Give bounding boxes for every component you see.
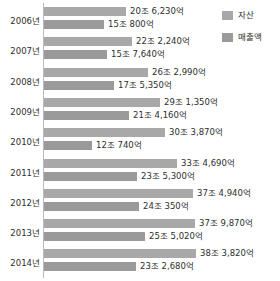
square-swatch-icon: [222, 33, 233, 42]
bar-value-label-asset: 20조 6,230억: [130, 5, 184, 17]
bar-asset: 30조 3,870억: [44, 128, 214, 137]
bar-value-label-sales: 25조 5,020억: [149, 230, 203, 242]
bar-group: 2011년33조 4,690억23조 5,300억: [0, 157, 215, 187]
bar-value-label-sales: 17조 5,350억: [118, 79, 172, 91]
bar-asset: 38조 3,820억: [44, 249, 214, 258]
bar-asset: 20조 6,230억: [44, 7, 214, 16]
bar-rect-sales: [44, 172, 137, 181]
square-swatch-icon: [222, 11, 233, 20]
bar-chart: 2006년20조 6,230억15조 800억2007년22조 2,240억15…: [0, 0, 280, 281]
bar-group: 2009년29조 1,350억21조 4,160억: [0, 96, 215, 126]
bar-rect-asset: [44, 159, 177, 168]
bar-rect-sales: [44, 141, 92, 150]
bar-asset: 22조 2,240억: [44, 37, 214, 46]
legend-label-asset: 자산: [238, 10, 254, 20]
bar-value-label-asset: 22조 2,240억: [136, 35, 190, 47]
bar-value-label-sales: 12조 740억: [96, 139, 142, 151]
bar-sales: 25조 5,020억: [44, 232, 214, 241]
bar-asset: 37조 9,870억: [44, 219, 214, 228]
bar-value-label-sales: 15조 7,640억: [111, 48, 165, 60]
bar-value-label-asset: 26조 2,990억: [152, 66, 206, 78]
bar-rect-sales: [44, 20, 104, 29]
bar-rect-sales: [44, 262, 136, 271]
bar-asset: 29조 1,350억: [44, 98, 214, 107]
bar-sales: 17조 5,350억: [44, 81, 214, 90]
bar-value-label-asset: 37조 9,870억: [199, 217, 253, 229]
bar-group: 2007년22조 2,240억15조 7,640억: [0, 35, 215, 65]
bar-value-label-asset: 33조 4,690억: [181, 157, 235, 169]
bar-rect-sales: [44, 202, 139, 211]
bar-sales: 23조 2,680억: [44, 262, 214, 271]
year-axis-label: 2008년: [2, 75, 40, 87]
bar-sales: 23조 5,300억: [44, 172, 214, 181]
bar-group: 2014년38조 3,820억23조 2,680억: [0, 247, 215, 277]
chart-legend: 자산 매출액: [222, 7, 280, 51]
bar-rect-asset: [44, 219, 195, 228]
year-axis-label: 2010년: [2, 135, 40, 147]
bar-value-label-asset: 30조 3,870억: [169, 126, 223, 138]
bar-value-label-sales: 15조 800억: [108, 18, 154, 30]
bar-asset: 33조 4,690억: [44, 159, 214, 168]
year-axis-label: 2014년: [2, 256, 40, 268]
bar-sales: 15조 7,640억: [44, 50, 214, 59]
bar-rect-asset: [44, 37, 132, 46]
bar-value-label-sales: 24조 350억: [143, 200, 189, 212]
plot-area: 2006년20조 6,230억15조 800억2007년22조 2,240억15…: [0, 0, 215, 281]
bar-value-label-asset: 29조 1,350억: [164, 96, 218, 108]
bar-group: 2010년30조 3,870억12조 740억: [0, 126, 215, 156]
bar-value-label-sales: 23조 5,300억: [141, 170, 195, 182]
bar-group: 2006년20조 6,230억15조 800억: [0, 5, 215, 35]
bar-value-label-asset: 37조 4,940억: [197, 187, 251, 199]
bar-rect-sales: [44, 50, 107, 59]
bar-rect-sales: [44, 81, 114, 90]
bar-rect-asset: [44, 7, 126, 16]
year-axis-label: 2012년: [2, 196, 40, 208]
bar-rect-sales: [44, 232, 145, 241]
legend-item-asset: 자산: [222, 7, 280, 23]
bar-group: 2012년37조 4,940억24조 350억: [0, 187, 215, 217]
bar-sales: 24조 350억: [44, 202, 214, 211]
legend-item-sales: 매출액: [222, 29, 280, 45]
bar-rect-asset: [44, 249, 196, 258]
bar-value-label-sales: 23조 2,680억: [140, 260, 194, 272]
bar-group: 2008년26조 2,990억17조 5,350억: [0, 66, 215, 96]
year-axis-label: 2006년: [2, 14, 40, 26]
bar-rect-asset: [44, 98, 160, 107]
bar-sales: 15조 800억: [44, 20, 214, 29]
bar-sales: 12조 740억: [44, 141, 214, 150]
bar-group: 2013년37조 9,870억25조 5,020억: [0, 217, 215, 247]
year-axis-label: 2013년: [2, 226, 40, 238]
bar-value-label-asset: 38조 3,820억: [200, 247, 254, 259]
bar-rect-asset: [44, 189, 193, 198]
year-axis-label: 2007년: [2, 44, 40, 56]
bar-rect-asset: [44, 128, 165, 137]
bar-asset: 37조 4,940억: [44, 189, 214, 198]
year-axis-label: 2011년: [2, 166, 40, 178]
year-axis-label: 2009년: [2, 105, 40, 117]
bar-asset: 26조 2,990억: [44, 68, 214, 77]
bar-rect-sales: [44, 111, 129, 120]
bar-rect-asset: [44, 68, 148, 77]
bar-sales: 21조 4,160억: [44, 111, 214, 120]
legend-label-sales: 매출액: [238, 32, 262, 42]
bar-value-label-sales: 21조 4,160억: [133, 109, 187, 121]
